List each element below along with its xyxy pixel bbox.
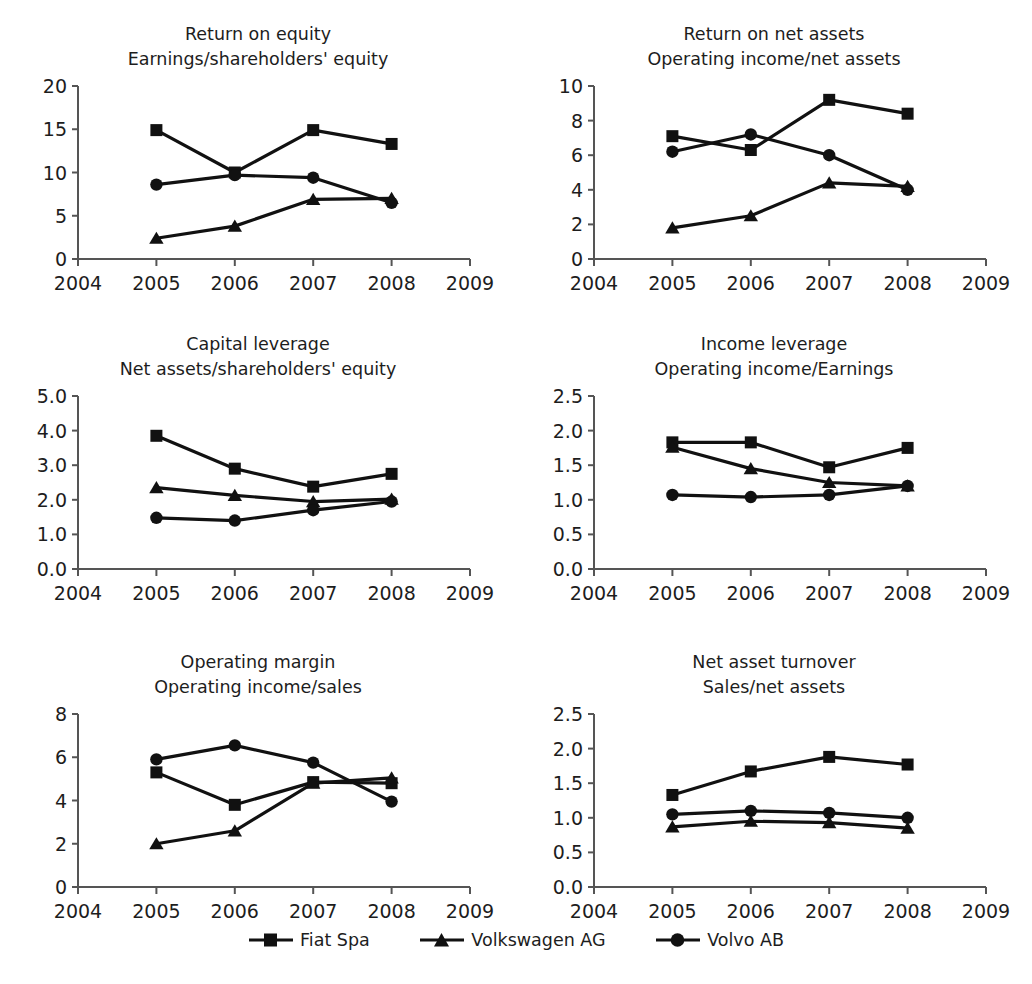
svg-text:2007: 2007 [805,272,853,294]
svg-text:2009: 2009 [446,272,494,294]
chart-title-line2: Operating income/sales [0,675,516,700]
svg-text:2009: 2009 [962,272,1010,294]
svg-text:0: 0 [571,248,583,270]
chart-panel-capital-leverage: Capital leverage Net assets/shareholders… [0,332,516,622]
chart-title-line1: Return on net assets [516,22,1032,47]
plot-area-capital-leverage: 0.01.02.03.04.05.02004200520062007200820… [0,382,516,622]
chart-title-return-on-equity: Return on equity Earnings/shareholders' … [0,22,516,72]
svg-text:2006: 2006 [211,900,259,922]
chart-title-return-on-net-assets: Return on net assets Operating income/ne… [516,22,1032,72]
svg-text:4: 4 [55,790,67,812]
legend-label-volkswagen-ag: Volkswagen AG [471,930,605,950]
svg-text:1.0: 1.0 [37,523,67,545]
chart-title-operating-margin: Operating margin Operating income/sales [0,650,516,700]
plot-area-net-asset-turnover: 0.00.51.01.52.02.52004200520062007200820… [516,700,1032,940]
svg-text:2008: 2008 [367,582,415,604]
legend-label-fiat-spa: Fiat Spa [300,930,370,950]
svg-text:2006: 2006 [211,272,259,294]
figure-legend: Fiat Spa Volkswagen AG Volvo AB [0,928,1032,950]
chart-title-capital-leverage: Capital leverage Net assets/shareholders… [0,332,516,382]
svg-text:8: 8 [571,110,583,132]
chart-panel-net-asset-turnover: Net asset turnover Sales/net assets 0.00… [516,650,1032,940]
chart-title-line2: Sales/net assets [516,675,1032,700]
plot-area-return-on-equity: 05101520200420052006200720082009 [0,72,516,312]
svg-text:0: 0 [55,876,67,898]
chart-title-line1: Operating margin [0,650,516,675]
svg-text:4: 4 [571,179,583,201]
chart-title-line2: Operating income/Earnings [516,357,1032,382]
svg-text:2006: 2006 [211,582,259,604]
svg-text:0.5: 0.5 [553,841,583,863]
svg-text:15: 15 [43,118,67,140]
chart-panel-return-on-equity: Return on equity Earnings/shareholders' … [0,22,516,312]
svg-text:5: 5 [55,205,67,227]
svg-text:2.5: 2.5 [553,703,583,725]
svg-text:2005: 2005 [648,582,696,604]
square-marker-icon [248,932,294,948]
svg-text:2007: 2007 [289,900,337,922]
plot-area-operating-margin: 02468200420052006200720082009 [0,700,516,940]
svg-text:2008: 2008 [883,272,931,294]
svg-text:2.0: 2.0 [37,489,67,511]
circle-marker-icon [655,932,701,948]
svg-text:2005: 2005 [132,272,180,294]
svg-text:6: 6 [55,746,67,768]
svg-text:1.0: 1.0 [553,489,583,511]
svg-text:10: 10 [559,75,583,97]
figure-grid: Return on equity Earnings/shareholders' … [0,0,1032,984]
svg-text:4.0: 4.0 [37,420,67,442]
svg-text:2005: 2005 [648,272,696,294]
svg-text:2004: 2004 [570,900,618,922]
svg-text:2004: 2004 [570,272,618,294]
svg-text:20: 20 [43,75,67,97]
legend-item-fiat-spa[interactable]: Fiat Spa [248,929,370,950]
chart-title-line2: Net assets/shareholders' equity [0,357,516,382]
svg-text:2008: 2008 [883,900,931,922]
chart-title-net-asset-turnover: Net asset turnover Sales/net assets [516,650,1032,700]
chart-title-line2: Earnings/shareholders' equity [0,47,516,72]
svg-text:2.0: 2.0 [553,420,583,442]
svg-text:0.5: 0.5 [553,523,583,545]
legend-label-volvo-ab: Volvo AB [707,930,784,950]
svg-text:2004: 2004 [54,582,102,604]
svg-text:2007: 2007 [805,900,853,922]
svg-text:2.5: 2.5 [553,385,583,407]
svg-text:2.0: 2.0 [553,738,583,760]
svg-text:1.5: 1.5 [553,454,583,476]
triangle-marker-icon [419,932,465,948]
svg-text:2004: 2004 [54,900,102,922]
svg-text:10: 10 [43,162,67,184]
svg-text:0.0: 0.0 [37,558,67,580]
svg-text:1.0: 1.0 [553,807,583,829]
svg-text:2009: 2009 [962,582,1010,604]
svg-text:5.0: 5.0 [37,385,67,407]
svg-text:2004: 2004 [54,272,102,294]
svg-text:0: 0 [55,248,67,270]
svg-text:2008: 2008 [367,900,415,922]
svg-text:6: 6 [571,144,583,166]
svg-text:2009: 2009 [962,900,1010,922]
plot-area-income-leverage: 0.00.51.01.52.02.52004200520062007200820… [516,382,1032,622]
svg-text:2007: 2007 [289,272,337,294]
chart-title-line2: Operating income/net assets [516,47,1032,72]
svg-text:2004: 2004 [570,582,618,604]
svg-text:0.0: 0.0 [553,876,583,898]
svg-text:2009: 2009 [446,582,494,604]
chart-panel-operating-margin: Operating margin Operating income/sales … [0,650,516,940]
chart-panel-income-leverage: Income leverage Operating income/Earning… [516,332,1032,622]
svg-text:2008: 2008 [883,582,931,604]
svg-text:2005: 2005 [648,900,696,922]
legend-item-volkswagen-ag[interactable]: Volkswagen AG [419,929,605,950]
svg-text:2006: 2006 [727,272,775,294]
chart-title-line1: Return on equity [0,22,516,47]
svg-text:2009: 2009 [446,900,494,922]
svg-text:0.0: 0.0 [553,558,583,580]
svg-text:2006: 2006 [727,582,775,604]
svg-text:3.0: 3.0 [37,454,67,476]
chart-panel-return-on-net-assets: Return on net assets Operating income/ne… [516,22,1032,312]
svg-text:2006: 2006 [727,900,775,922]
svg-text:2: 2 [55,833,67,855]
legend-item-volvo-ab[interactable]: Volvo AB [655,929,784,950]
svg-text:8: 8 [55,703,67,725]
svg-text:2008: 2008 [367,272,415,294]
